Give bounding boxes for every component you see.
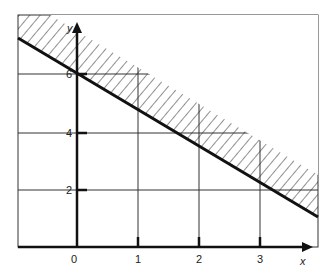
x-tick-1: 1	[135, 253, 141, 265]
x-axis-label: x	[299, 255, 306, 267]
x-tick-0: 0	[71, 253, 77, 265]
y-tick-2: 2	[66, 184, 72, 196]
y-tick-6: 6	[66, 68, 72, 80]
x-tick-3: 3	[257, 253, 263, 265]
y-tick-4: 4	[66, 127, 72, 139]
x-tick-2: 2	[196, 253, 202, 265]
x-axis-arrow-icon	[302, 242, 313, 252]
graph: y x 6 4 2 0 1 2 3	[0, 0, 333, 277]
